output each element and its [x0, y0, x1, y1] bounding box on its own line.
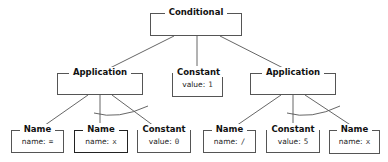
node-value: name:/: [204, 137, 255, 146]
node-title: Conditional: [165, 7, 228, 17]
node-title: Constant: [267, 124, 318, 134]
name-node-equals: Name name:=: [11, 130, 64, 153]
constant-node-0: Constant value:0: [137, 130, 191, 153]
name-node-x-right: Name name:x: [329, 130, 380, 154]
constant-node-5: Constant value:5: [266, 130, 320, 153]
name-node-divide: Name name:/: [203, 130, 256, 153]
node-value: value:0: [138, 137, 190, 146]
node-title: Constant: [173, 67, 224, 77]
application-node-right: Application: [250, 73, 336, 95]
conditional-node: Conditional: [150, 13, 242, 36]
node-value: value:1: [173, 80, 222, 89]
node-value: name:x: [75, 137, 127, 146]
node-title: Name: [337, 124, 372, 134]
node-value: value:5: [267, 137, 319, 146]
node-value: name:=: [12, 137, 63, 146]
constant-node-1: Constant value:1: [172, 73, 223, 97]
node-title: Application: [262, 67, 324, 77]
node-title: Name: [20, 124, 55, 134]
node-title: Application: [69, 67, 131, 77]
edge-app-left-const-0: [112, 95, 154, 126]
node-title: Constant: [138, 124, 189, 134]
arc-right-arguments: [287, 106, 340, 115]
application-node-left: Application: [57, 73, 143, 95]
node-title: Name: [212, 124, 247, 134]
node-value: name:x: [330, 137, 379, 146]
node-title: Name: [83, 124, 118, 134]
name-node-x-left: Name name:x: [74, 130, 128, 153]
arc-left-arguments: [94, 106, 148, 115]
